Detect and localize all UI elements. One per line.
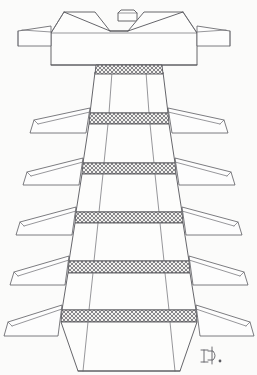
hatched-band-2 — [89, 113, 169, 124]
cap-side-tab-left — [18, 26, 51, 46]
fin-left-4 — [10, 256, 69, 285]
artist-monogram — [201, 347, 221, 364]
fin-right-3 — [182, 207, 242, 235]
base-flare — [61, 322, 197, 371]
tier-2 — [83, 124, 175, 163]
fin-right-2 — [175, 158, 235, 185]
hatched-band-4 — [75, 212, 183, 223]
fin-left-3 — [16, 207, 76, 235]
tier-1 — [90, 72, 168, 113]
fin-left-1 — [30, 108, 90, 133]
tier-5 — [62, 273, 196, 310]
drawing-canvas: Stacked Tiered Column Line Drawing — [0, 0, 257, 375]
hatched-band-6 — [61, 310, 197, 322]
fin-right-5 — [196, 305, 254, 336]
fin-right-1 — [168, 108, 228, 133]
hatched-band-3 — [82, 163, 176, 174]
tier-4 — [69, 223, 189, 261]
top-knob — [118, 10, 137, 21]
cap-side-tab-right — [197, 26, 230, 46]
fin-left-2 — [23, 158, 83, 185]
fin-left-5 — [4, 305, 62, 336]
hatched-band-1 — [95, 65, 163, 74]
tier-3 — [76, 174, 182, 212]
fin-right-4 — [189, 256, 248, 285]
hatched-band-5 — [68, 261, 190, 273]
figure-svg: Stacked Tiered Column Line Drawing — [0, 0, 257, 375]
